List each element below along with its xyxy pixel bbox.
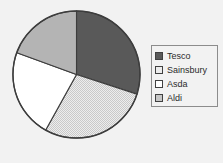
legend-label-aldi: Aldi <box>167 94 182 103</box>
legend-swatch-asda <box>155 80 163 88</box>
legend-item-sainsbury[interactable]: Sainsbury <box>155 63 217 77</box>
legend-swatch-sainsbury <box>155 66 163 74</box>
legend-swatch-tesco <box>155 52 163 60</box>
pie-chart-svg <box>12 10 141 139</box>
legend-label-asda: Asda <box>167 80 188 89</box>
legend-item-asda[interactable]: Asda <box>155 77 217 91</box>
legend-swatch-aldi <box>155 94 163 102</box>
legend-item-tesco[interactable]: Tesco <box>155 49 217 63</box>
legend: Tesco Sainsbury Asda Aldi <box>151 45 218 107</box>
legend-label-sainsbury: Sainsbury <box>167 66 207 75</box>
pie-chart <box>12 10 141 139</box>
legend-item-aldi[interactable]: Aldi <box>155 91 217 105</box>
legend-label-tesco: Tesco <box>167 52 191 61</box>
pie-chart-screenshot: Tesco Sainsbury Asda Aldi <box>0 0 223 163</box>
